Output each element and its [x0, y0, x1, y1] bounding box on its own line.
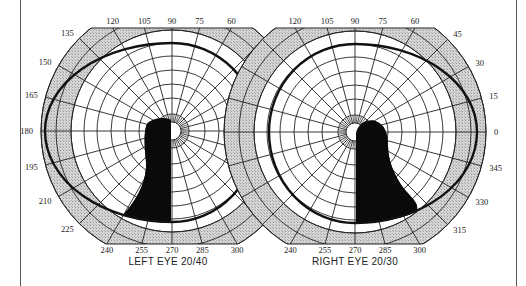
- angle-tick-label: 75: [195, 16, 204, 26]
- angle-tick-label: 30: [475, 58, 484, 68]
- angle-tick-label: 90: [168, 16, 177, 26]
- angle-tick-label: 285: [196, 245, 209, 255]
- angle-tick-label: 105: [321, 16, 334, 26]
- angle-tick-label: 315: [453, 225, 466, 235]
- angle-tick-label: 240: [284, 245, 297, 255]
- angle-tick-label: 195: [25, 162, 38, 172]
- angle-tick-label: 225: [61, 224, 74, 234]
- angle-tick-label: 105: [138, 16, 151, 26]
- angle-tick-label: 15: [489, 91, 498, 101]
- angle-tick-label: 180: [20, 126, 33, 136]
- left-eye-caption: LEFT EYE 20/40: [128, 256, 207, 267]
- right-eye-caption: RIGHT EYE 20/30: [312, 256, 398, 267]
- angle-tick-label: 345: [489, 163, 502, 173]
- angle-tick-label: 300: [413, 245, 426, 255]
- angle-tick-label: 255: [319, 245, 332, 255]
- angle-tick-label: 90: [351, 16, 360, 26]
- angle-tick-label: 135: [61, 28, 74, 38]
- angle-tick-label: 240: [100, 245, 113, 255]
- visual-field-charts: 1201059075601351501651801952102252402552…: [0, 0, 526, 286]
- angle-tick-label: 120: [289, 16, 302, 26]
- angle-tick-label: 0: [494, 127, 498, 137]
- angle-tick-label: 165: [25, 90, 38, 100]
- angle-tick-label: 270: [349, 245, 362, 255]
- angle-tick-label: 60: [227, 16, 236, 26]
- angle-tick-label: 270: [166, 245, 179, 255]
- angle-tick-label: 150: [39, 57, 52, 67]
- angle-tick-label: 300: [231, 245, 244, 255]
- angle-tick-label: 330: [475, 197, 488, 207]
- angle-tick-label: 45: [453, 29, 462, 39]
- angle-tick-label: 255: [135, 245, 148, 255]
- angle-tick-label: 75: [379, 16, 388, 26]
- angle-tick-label: 120: [106, 16, 119, 26]
- angle-tick-label: 60: [411, 16, 420, 26]
- angle-tick-label: 285: [379, 245, 392, 255]
- right-eye-field-chart: 1201059075604530150345330315240255270285…: [224, 1, 502, 263]
- angle-tick-label: 210: [39, 196, 52, 206]
